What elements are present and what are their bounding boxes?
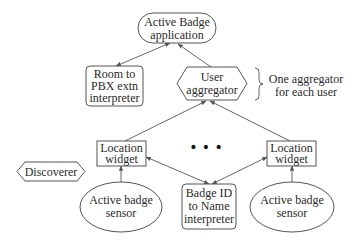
node-label-line: sensor — [277, 206, 308, 220]
node-label-line: Active Badge — [144, 15, 210, 29]
node-discoverer: Discoverer — [17, 162, 85, 181]
brace-icon — [255, 68, 263, 100]
edge-loc-left-user-agg — [125, 101, 206, 141]
node-label-line: sensor — [106, 206, 137, 220]
node-label-line: aggregator — [186, 83, 237, 97]
node-location-widget-right: Location widget — [267, 141, 316, 166]
node-label-line: User — [201, 70, 224, 84]
node-label-line: to Name — [189, 199, 230, 213]
node-location-widget-left: Location widget — [97, 141, 146, 166]
node-user-aggregator: User aggregator — [177, 67, 247, 100]
node-label-line: widget — [275, 152, 308, 166]
node-label-line: interpreter — [90, 91, 140, 105]
node-active-badge-sensor-left: Active badge sensor — [80, 182, 162, 232]
more-widgets-ellipsis: • • • — [189, 139, 223, 155]
edge-loc-right-badge-name — [212, 157, 267, 184]
edge-loc-left-badge-name — [146, 157, 209, 184]
node-label-line: application — [150, 28, 203, 42]
edge-loc-right-user-agg — [210, 101, 290, 141]
edge-app-room-pbx — [116, 43, 170, 66]
annotation-line: One aggregator — [269, 72, 343, 86]
node-label-line: widget — [105, 152, 138, 166]
node-label-line: interpreter — [184, 212, 234, 226]
node-active-badge-application: Active Badge application — [138, 13, 216, 43]
node-room-to-pbx-interpreter: Room to PBX extn interpreter — [86, 66, 143, 106]
node-label-line: Active badge — [260, 193, 324, 207]
annotation-one-aggregator-per-user: One aggregator for each user — [255, 68, 343, 100]
node-label-line: Discoverer — [25, 165, 78, 179]
node-active-badge-sensor-right: Active badge sensor — [250, 182, 334, 232]
node-badge-id-to-name-interpreter: Badge ID to Name interpreter — [182, 184, 236, 229]
node-label-line: Badge ID — [186, 186, 233, 200]
node-label-line: Active badge — [89, 193, 153, 207]
edge-user-agg-app — [178, 44, 211, 67]
architecture-diagram: Active Badge application Room to PBX ext… — [0, 0, 354, 241]
annotation-line: for each user — [275, 85, 337, 99]
